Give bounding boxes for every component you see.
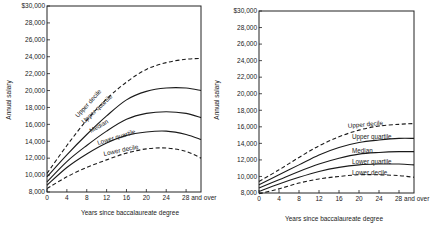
right-x-tick-label: 8: [297, 195, 301, 202]
left-x-axis-label: Years since baccalaureate degree: [81, 209, 179, 217]
right-x-tick-label: 12: [315, 195, 323, 202]
left-x-tick-label: 4: [65, 194, 69, 201]
left-y-tick-label: 12,000: [25, 154, 45, 161]
right-x-tick-label: 16: [335, 195, 343, 202]
right-salary-chart: 8,00010,00012,00014,00016,00018,00020,00…: [234, 7, 431, 202]
left-y-tick-label: 24,000: [25, 53, 45, 60]
left-x-tick-label: 24: [163, 194, 171, 201]
salary-charts: 8,00010,00012,00014,00016,00018,00020,00…: [0, 0, 432, 231]
right-label-upper-quartile: Upper quartile: [352, 133, 392, 141]
right-y-tick-label: 16,000: [237, 123, 257, 130]
right-x-tick-label: 20: [355, 195, 363, 202]
left-y-tick-label: 22,000: [25, 70, 45, 77]
left-curve-upper-decile: [47, 58, 201, 173]
left-y-tick-label: 20,000: [25, 87, 45, 94]
left-curve-lower-decile: [47, 148, 201, 189]
right-y-tick-label: 24,000: [237, 57, 257, 64]
left-x-tick-label: 0: [45, 194, 49, 201]
right-y-tick-label: 26,000: [237, 40, 257, 47]
left-y-tick-label: 26,000: [25, 36, 45, 43]
right-label-lower-decile: Lower decile: [352, 169, 388, 176]
right-label-median: Median: [352, 147, 373, 154]
right-y-tick-label: 28,000: [237, 24, 257, 31]
left-plot-frame: [47, 6, 201, 192]
left-x-tick-label: 28 and over: [182, 194, 217, 201]
left-y-tick-label: 16,000: [25, 121, 45, 128]
left-x-tick-label: 16: [123, 194, 131, 201]
right-y-tick-label: 12,000: [237, 156, 257, 163]
right-y-tick-label: 20,000: [237, 90, 257, 97]
right-x-axis-label: Years since baccalaureate degree: [285, 215, 383, 223]
left-y-tick-label: 28,000: [25, 19, 45, 26]
right-y-tick-label: 22,000: [237, 73, 257, 80]
right-label-lower-quartile: Lower quartile: [352, 158, 392, 166]
right-y-tick-label: $30,000: [234, 7, 258, 14]
right-y-tick-label: 18,000: [237, 107, 257, 114]
left-y-tick-label: 8,000: [29, 188, 46, 195]
left-y-axis-label: Annual salary: [5, 80, 13, 120]
left-x-tick-label: 20: [143, 194, 151, 201]
left-salary-chart: 8,00010,00012,00014,00016,00018,00020,00…: [22, 2, 218, 201]
right-y-tick-label: 8,000: [241, 189, 258, 196]
left-x-tick-label: 8: [85, 194, 89, 201]
left-y-tick-label: 14,000: [25, 138, 45, 145]
right-y-axis-label: Annual salary: [213, 80, 221, 120]
left-y-tick-label: $30,000: [22, 2, 46, 9]
right-plot-frame: [259, 11, 414, 193]
right-curve-lower-decile: [259, 175, 414, 194]
right-x-tick-label: 24: [375, 195, 383, 202]
left-y-tick-label: 10,000: [25, 171, 45, 178]
left-x-tick-label: 12: [103, 194, 111, 201]
right-y-tick-label: 14,000: [237, 140, 257, 147]
right-y-tick-label: 10,000: [237, 173, 257, 180]
right-x-tick-label: 4: [277, 195, 281, 202]
right-x-tick-label: 28 and over: [395, 195, 430, 202]
left-y-tick-label: 18,000: [25, 104, 45, 111]
right-x-tick-label: 0: [257, 195, 261, 202]
